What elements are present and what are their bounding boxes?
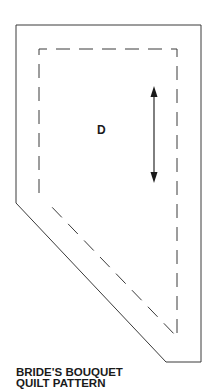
pattern-title: BRIDE'S BOUQUET QUILT PATTERN <box>16 367 123 389</box>
outer-cutting-line <box>16 25 201 362</box>
inner-sewing-line <box>39 49 177 337</box>
piece-label: D <box>97 123 106 137</box>
title-line-2: QUILT PATTERN <box>16 378 123 389</box>
grain-line-arrow-icon <box>151 86 158 183</box>
pattern-diagram <box>0 0 211 391</box>
